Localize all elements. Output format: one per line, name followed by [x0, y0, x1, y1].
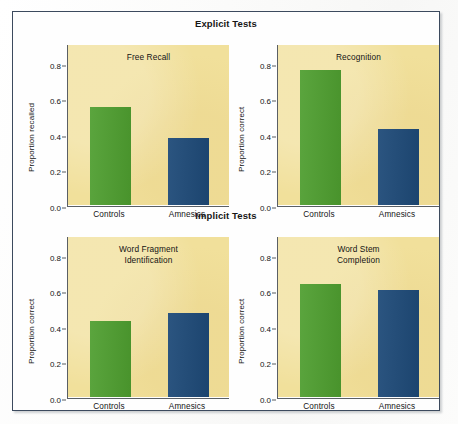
y-tick-label: 0.6 — [260, 97, 271, 106]
y-tick-label: 0.6 — [50, 289, 61, 298]
y-tick-label: 0.4 — [50, 324, 61, 333]
x-axis-line — [277, 206, 439, 207]
bar-amnesics — [378, 129, 419, 205]
plot-title: Word Fragment Identification — [68, 244, 229, 266]
plot-title: Free Recall — [68, 52, 229, 63]
y-tick-label: 0.2 — [50, 360, 61, 369]
y-tick-label: 0.6 — [50, 97, 61, 106]
y-tick-label: 0.0 — [50, 204, 61, 213]
y-tick-label: 0.8 — [260, 61, 271, 70]
y-tick-label: 0.8 — [50, 61, 61, 70]
y-tick-label: 0.2 — [260, 360, 271, 369]
bar-controls — [300, 70, 341, 205]
bar-controls — [90, 107, 131, 205]
y-tick-mark — [272, 208, 276, 209]
section-title-explicit: Explicit Tests — [13, 18, 439, 29]
x-label-amnesics: Amnesics — [156, 402, 218, 411]
y-axis-label: Proportion correct — [237, 158, 246, 172]
plot-title-line-2: Identification — [68, 255, 229, 266]
y-tick-label: 0.8 — [50, 253, 61, 262]
y-tick-mark — [272, 136, 276, 137]
y-tick-mark — [272, 328, 276, 329]
y-tick-label: 0.0 — [50, 396, 61, 405]
x-axis-line — [67, 206, 229, 207]
bar-amnesics — [168, 138, 209, 205]
y-axis-label: Proportion correct — [237, 350, 246, 364]
x-label-amnesics: Amnesics — [366, 210, 428, 219]
y-tick-mark — [272, 257, 276, 258]
figure-canvas: Explicit Tests Implicit Tests Proportion… — [0, 0, 458, 424]
x-axis-labels: Controls Amnesics — [67, 402, 229, 416]
plot-area: Word Stem Completion — [278, 237, 439, 397]
x-axis-line — [277, 398, 439, 399]
y-tick-label: 0.8 — [260, 253, 271, 262]
bar-amnesics — [168, 313, 209, 397]
y-tick-label: 0.6 — [260, 289, 271, 298]
y-tick-label: 0.4 — [260, 132, 271, 141]
x-label-controls: Controls — [288, 210, 350, 219]
plot-title: Word Stem Completion — [278, 244, 439, 266]
bar-amnesics — [378, 290, 419, 397]
y-axis-label: Proportion correct — [27, 350, 36, 364]
y-tick-label: 0.4 — [260, 324, 271, 333]
bar-controls — [300, 284, 341, 397]
figure-frame: Explicit Tests Implicit Tests Proportion… — [12, 11, 440, 411]
x-label-amnesics: Amnesics — [156, 210, 218, 219]
y-tick-label: 0.2 — [260, 168, 271, 177]
y-tick-mark — [62, 328, 66, 329]
y-tick-mark — [62, 101, 66, 102]
y-axis-ticks: 0.00.20.40.60.8 — [39, 240, 61, 396]
plot-title-line-2: Completion — [278, 255, 439, 266]
plot-area: Recognition — [278, 45, 439, 205]
x-label-controls: Controls — [78, 402, 140, 411]
plot-title-line-1: Word Stem — [278, 244, 439, 255]
x-axis-labels: Controls Amnesics — [67, 210, 229, 224]
y-axis-ticks: 0.00.20.40.60.8 — [39, 48, 61, 204]
y-tick-mark — [62, 257, 66, 258]
y-tick-mark — [272, 364, 276, 365]
y-tick-mark — [272, 172, 276, 173]
y-tick-mark — [62, 208, 66, 209]
x-label-amnesics: Amnesics — [366, 402, 428, 411]
x-axis-labels: Controls Amnesics — [277, 210, 439, 224]
y-tick-label: 0.0 — [260, 396, 271, 405]
y-tick-mark — [62, 400, 66, 401]
y-tick-mark — [272, 101, 276, 102]
y-tick-mark — [272, 293, 276, 294]
x-axis-line — [67, 398, 229, 399]
plot-title-line-1: Word Fragment — [68, 244, 229, 255]
y-tick-mark — [62, 136, 66, 137]
y-tick-mark — [62, 65, 66, 66]
y-axis-ticks: 0.00.20.40.60.8 — [249, 240, 271, 396]
x-axis-labels: Controls Amnesics — [277, 402, 439, 416]
plot-title: Recognition — [278, 52, 439, 63]
y-axis-label: Proportion recalled — [27, 158, 36, 172]
y-tick-mark — [62, 293, 66, 294]
y-tick-mark — [62, 364, 66, 365]
x-label-controls: Controls — [288, 402, 350, 411]
y-axis-ticks: 0.00.20.40.60.8 — [249, 48, 271, 204]
y-tick-label: 0.0 — [260, 204, 271, 213]
y-tick-label: 0.4 — [50, 132, 61, 141]
y-tick-mark — [62, 172, 66, 173]
y-tick-mark — [272, 400, 276, 401]
x-label-controls: Controls — [78, 210, 140, 219]
y-tick-mark — [272, 65, 276, 66]
bar-controls — [90, 321, 131, 397]
plot-area: Word Fragment Identification — [68, 237, 229, 397]
y-tick-label: 0.2 — [50, 168, 61, 177]
plot-area: Free Recall — [68, 45, 229, 205]
